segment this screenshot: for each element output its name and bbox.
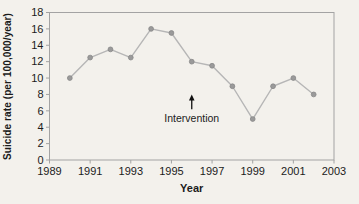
x-tick-label: 1995 xyxy=(159,165,183,177)
data-point xyxy=(311,92,316,97)
y-tick-label: 18 xyxy=(31,6,43,18)
data-point xyxy=(169,31,174,36)
y-tick-label: 2 xyxy=(37,137,43,149)
x-tick-label: 1999 xyxy=(240,165,264,177)
x-tick-label: 2003 xyxy=(322,165,346,177)
x-axis-title: Year xyxy=(180,182,204,194)
data-point xyxy=(128,55,133,60)
annotation-label: Intervention xyxy=(164,112,219,124)
suicide-rate-time-series-figure: 0246810121416181989199119931995199719992… xyxy=(0,0,359,204)
y-tick-label: 16 xyxy=(31,23,43,35)
chart-canvas: 0246810121416181989199119931995199719992… xyxy=(0,0,359,204)
y-tick-label: 12 xyxy=(31,55,43,67)
x-tick-label: 1991 xyxy=(78,165,102,177)
data-point xyxy=(210,63,215,68)
x-tick-label: 1993 xyxy=(119,165,143,177)
data-point xyxy=(291,76,296,81)
data-point xyxy=(149,26,154,31)
y-tick-label: 6 xyxy=(37,105,43,117)
data-point xyxy=(271,84,276,89)
x-tick-label: 1989 xyxy=(37,165,61,177)
y-tick-label: 10 xyxy=(31,72,43,84)
x-tick-label: 2001 xyxy=(281,165,305,177)
chart-generated-content: 0246810121416181989199119931995199719992… xyxy=(31,6,346,177)
y-axis-title: Suicide rate (per 100,000/year) xyxy=(2,13,13,160)
data-point xyxy=(250,117,255,122)
annotation-arrow-head xyxy=(189,94,195,100)
data-point xyxy=(189,59,194,64)
y-tick-label: 0 xyxy=(37,154,43,166)
data-point xyxy=(67,76,72,81)
y-tick-label: 14 xyxy=(31,39,43,51)
data-point xyxy=(108,47,113,52)
y-tick-label: 8 xyxy=(37,88,43,100)
x-tick-label: 1997 xyxy=(200,165,224,177)
data-point xyxy=(230,84,235,89)
y-tick-label: 4 xyxy=(37,121,43,133)
plot-frame xyxy=(50,13,335,161)
data-point xyxy=(88,55,93,60)
